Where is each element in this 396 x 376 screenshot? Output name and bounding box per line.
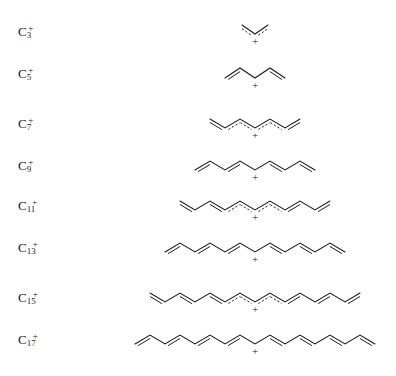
molecular-structure [0, 106, 396, 152]
double-bond [270, 247, 281, 254]
structure-row: C17++ [0, 322, 396, 368]
structure-row: C7++ [0, 106, 396, 152]
double-bond [198, 165, 209, 172]
structure-row: C11++ [0, 188, 396, 234]
positive-charge-symbol: + [252, 254, 258, 265]
delocalized-bond [258, 123, 269, 130]
positive-charge-symbol: + [252, 304, 258, 315]
double-bond [270, 339, 281, 346]
molecular-structure [0, 188, 396, 234]
structure-row: C13++ [0, 230, 396, 276]
molecular-structure [0, 12, 396, 58]
double-bond [198, 339, 209, 346]
delocalized-bond [240, 205, 251, 212]
double-bond [150, 297, 161, 304]
delocalized-bond [242, 29, 251, 35]
double-bond [348, 297, 359, 304]
double-bond [360, 339, 371, 346]
delocalized-bond [258, 297, 269, 304]
double-bond [300, 339, 311, 346]
double-bond [330, 339, 341, 346]
positive-charge-symbol: + [252, 212, 258, 223]
double-bond [228, 165, 239, 172]
positive-charge-symbol: + [252, 130, 258, 141]
structure-row: C5++ [0, 56, 396, 102]
double-bond [270, 72, 281, 80]
positive-charge-symbol: + [252, 346, 258, 357]
double-bond [210, 297, 221, 304]
delocalized-bond [240, 297, 251, 304]
double-bond [288, 123, 299, 130]
figure-canvas: C3++C5++C7++C9++C11++C13++C15++C17++ [0, 0, 396, 376]
double-bond [168, 247, 179, 254]
double-bond [228, 339, 239, 346]
positive-charge-symbol: + [252, 80, 258, 91]
delocalized-bond [258, 205, 269, 212]
carbon-skeleton [242, 25, 268, 34]
double-bond [210, 123, 221, 130]
double-bond [300, 165, 311, 172]
carbon-skeleton [210, 119, 300, 128]
delocalized-bond [259, 29, 268, 35]
double-bond [330, 247, 341, 254]
structure-row: C3++ [0, 12, 396, 58]
carbon-skeleton [180, 201, 330, 210]
molecular-structure [0, 280, 396, 326]
molecular-structure [0, 322, 396, 368]
positive-charge-symbol: + [252, 36, 258, 47]
double-bond [318, 297, 329, 304]
structure-row: C15++ [0, 280, 396, 326]
molecular-structure [0, 230, 396, 276]
molecular-structure [0, 56, 396, 102]
double-bond [180, 205, 191, 212]
delocalized-bond [228, 123, 239, 130]
delocalized-bond [228, 205, 239, 212]
carbon-skeleton [225, 68, 285, 78]
double-bond [198, 247, 209, 254]
delocalized-bond [240, 123, 251, 130]
double-bond [288, 205, 299, 212]
double-bond [270, 165, 281, 172]
double-bond [180, 297, 191, 304]
delocalized-bond [270, 297, 281, 304]
double-bond [210, 205, 221, 212]
double-bond [168, 339, 179, 346]
carbon-skeleton [165, 243, 345, 252]
double-bond [300, 247, 311, 254]
double-bond [288, 297, 299, 304]
carbon-skeleton [195, 161, 315, 170]
carbon-skeleton [135, 335, 375, 344]
delocalized-bond [270, 123, 281, 130]
double-bond [138, 339, 149, 346]
delocalized-bond [270, 205, 281, 212]
double-bond [228, 72, 239, 80]
double-bond [228, 247, 239, 254]
delocalized-bond [228, 297, 239, 304]
double-bond [318, 205, 329, 212]
positive-charge-symbol: + [252, 172, 258, 183]
